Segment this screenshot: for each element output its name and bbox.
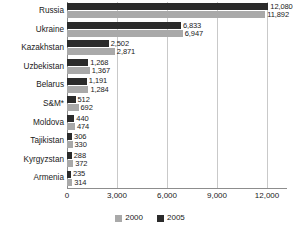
- bar-2000: [67, 141, 73, 148]
- bar-2000: [67, 86, 88, 93]
- legend-swatch-icon: [157, 215, 164, 222]
- bar-2000: [67, 179, 72, 186]
- bar-2005: [67, 22, 181, 29]
- plot-area: 12,08011,8926,8336,9472,5022,8711,2681,3…: [67, 2, 287, 188]
- bar-value-label: 11,892: [267, 11, 289, 19]
- legend-swatch-icon: [115, 215, 122, 222]
- bar-value-label: 440: [76, 115, 88, 123]
- category-label: Kyrgyzstan: [0, 156, 64, 164]
- bar-value-label: 1,367: [92, 67, 110, 75]
- value-axis-tick-labels: 03,0006,0009,00012,000: [67, 192, 287, 204]
- chart-legend: 20002005: [0, 214, 300, 222]
- bar-rows: 12,08011,8926,8336,9472,5022,8711,2681,3…: [67, 2, 287, 188]
- bar-2005: [67, 133, 72, 140]
- bar-value-label: 474: [77, 123, 89, 131]
- bar-value-label: 314: [74, 179, 86, 187]
- category-axis-line: [67, 188, 287, 189]
- category-label: Armenia: [0, 174, 64, 182]
- value-tick-label: 0: [65, 192, 69, 200]
- category-label: Kazakhstan: [0, 44, 64, 52]
- bar-value-label: 330: [75, 141, 87, 149]
- category-axis-labels: RussiaUkraineKazakhstanUzbekistanBelarus…: [0, 2, 64, 188]
- value-tick-label: 12,000: [255, 192, 279, 200]
- bar-value-label: 372: [75, 160, 87, 168]
- bar-row: 288372: [67, 151, 287, 170]
- bar-2000: [67, 104, 79, 111]
- legend-label: 2005: [167, 214, 185, 222]
- legend-label: 2000: [125, 214, 143, 222]
- category-label: Moldova: [0, 119, 64, 127]
- bar-2000: [67, 67, 90, 74]
- category-label: Ukraine: [0, 26, 64, 34]
- bar-row: 2,5022,871: [67, 39, 287, 58]
- bar-2005: [67, 59, 88, 66]
- value-tick-label: 3,000: [107, 192, 127, 200]
- bar-2000: [67, 123, 75, 130]
- value-tick-label: 9,000: [207, 192, 227, 200]
- category-label: Russia: [0, 7, 64, 15]
- bar-2005: [67, 152, 72, 159]
- bar-2005: [67, 115, 74, 122]
- bar-2000: [67, 160, 73, 167]
- bar-value-label: 1,284: [90, 86, 108, 94]
- bar-value-label: 692: [81, 104, 93, 112]
- bar-row: 12,08011,892: [67, 2, 287, 21]
- category-label: Uzbekistan: [0, 63, 64, 71]
- value-tick-label: 6,000: [157, 192, 177, 200]
- category-label: Belarus: [0, 81, 64, 89]
- bar-row: 440474: [67, 114, 287, 133]
- bar-value-label: 235: [73, 170, 85, 178]
- bar-row: 306330: [67, 132, 287, 151]
- legend-item[interactable]: 2005: [157, 214, 185, 222]
- bar-value-label: 6,833: [183, 22, 201, 30]
- bar-2005: [67, 3, 268, 10]
- bar-2000: [67, 30, 183, 37]
- category-label: Tajikistan: [0, 137, 64, 145]
- bar-value-label: 1,191: [89, 77, 107, 85]
- bar-row: 512692: [67, 95, 287, 114]
- bar-2005: [67, 78, 87, 85]
- bar-value-label: 2,871: [117, 48, 135, 56]
- bar-row: 1,2681,367: [67, 58, 287, 77]
- bar-value-label: 6,947: [185, 30, 203, 38]
- bar-2005: [67, 40, 109, 47]
- bar-2000: [67, 48, 115, 55]
- bar-2005: [67, 171, 71, 178]
- bar-2000: [67, 11, 265, 18]
- legend-item[interactable]: 2000: [115, 214, 143, 222]
- bar-row: 1,1911,284: [67, 76, 287, 95]
- bar-2005: [67, 96, 76, 103]
- category-label: S&M*: [0, 100, 64, 108]
- bar-chart: RussiaUkraineKazakhstanUzbekistanBelarus…: [0, 0, 300, 233]
- bar-row: 6,8336,947: [67, 21, 287, 40]
- bar-row: 235314: [67, 169, 287, 188]
